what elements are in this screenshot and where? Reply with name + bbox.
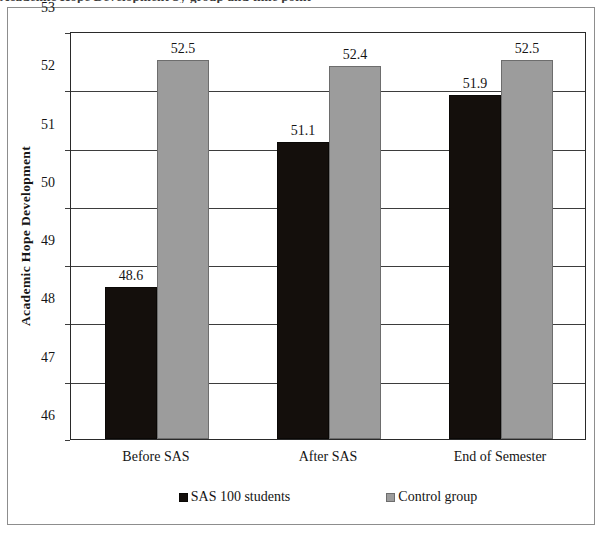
x-axis-category-label: End of Semester [454, 449, 547, 465]
figure-frame: Academic Hope Development 48.652.551.152… [7, 7, 595, 525]
x-axis-category-label: After SAS [299, 449, 358, 465]
bar-value-label: 48.6 [119, 268, 144, 284]
y-axis-tick-mark [65, 266, 70, 267]
y-axis-tick-label: 46 [14, 408, 64, 424]
x-axis-category-label: Before SAS [122, 449, 189, 465]
y-axis-tick-label: 50 [14, 175, 64, 191]
bar-value-label: 51.1 [291, 123, 316, 139]
y-axis-tick-mark [65, 383, 70, 384]
bar-sas-1[interactable] [277, 142, 329, 439]
y-axis-tick-label: 48 [14, 291, 64, 307]
bar-control-1[interactable] [329, 66, 381, 439]
y-axis-tick-label: 47 [14, 350, 64, 366]
y-axis-tick-mark [65, 440, 70, 441]
legend-item-sas-100-students[interactable]: SAS 100 students [179, 489, 291, 505]
bar-control-2[interactable] [501, 60, 553, 439]
y-axis-tick-label: 51 [14, 117, 64, 133]
clipped-caption-above-figure: Academic Hope Development by group and t… [0, 0, 603, 3]
y-axis-tick-label: 52 [14, 58, 64, 74]
y-axis-tick-mark [65, 150, 70, 151]
bar-sas-0[interactable] [105, 287, 157, 439]
legend-swatch-icon-control [386, 493, 395, 502]
bar-control-0[interactable] [157, 60, 209, 439]
legend-label-sas: SAS 100 students [191, 489, 291, 505]
y-axis-tick-mark [65, 324, 70, 325]
legend-label-control: Control group [398, 489, 477, 505]
bar-value-label: 52.4 [343, 47, 368, 63]
plot-area: 48.652.551.152.451.952.5 [70, 32, 586, 440]
chart-legend: SAS 100 students Control group [70, 486, 586, 508]
y-axis-tick-mark [65, 33, 70, 34]
y-axis-tick-label: 53 [14, 0, 64, 16]
bar-value-label: 52.5 [171, 41, 196, 57]
bar-value-label: 52.5 [515, 41, 540, 57]
bar-value-label: 51.9 [463, 76, 488, 92]
y-axis-tick-mark [65, 91, 70, 92]
y-axis-tick-mark [65, 208, 70, 209]
legend-item-control-group[interactable]: Control group [386, 489, 477, 505]
y-axis-tick-label: 49 [14, 233, 64, 249]
bar-sas-2[interactable] [449, 95, 501, 439]
legend-swatch-icon-sas [179, 493, 188, 502]
